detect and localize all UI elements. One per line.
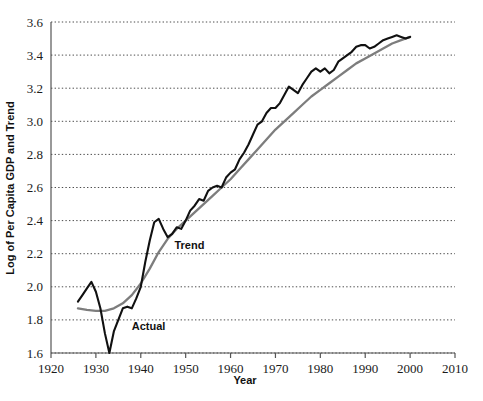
y-tick-label: 3.6 (27, 15, 44, 30)
x-axis-title: Year (233, 374, 257, 386)
y-tick-label: 3.0 (27, 114, 43, 129)
x-tick-label: 1950 (173, 361, 199, 376)
chart-figure: 1.61.82.02.22.42.62.83.03.23.43.6 192019… (0, 0, 483, 401)
y-tick-label: 3.4 (27, 48, 44, 63)
y-tick-label: 2.2 (27, 246, 43, 261)
y-tick-label: 2.6 (27, 180, 44, 195)
trend-label: Trend (174, 239, 204, 251)
y-tick-label: 3.2 (27, 81, 43, 96)
x-tick-label: 1940 (128, 361, 154, 376)
y-tick-label: 2.4 (27, 213, 44, 228)
actual-label: Actual (132, 320, 166, 332)
x-tick-label: 1930 (83, 361, 109, 376)
x-tick-label: 1920 (38, 361, 64, 376)
y-tick-label: 1.8 (27, 312, 43, 327)
x-tick-label: 2010 (442, 361, 468, 376)
x-tick-label: 1990 (352, 361, 378, 376)
gdp-trend-line-chart: 1.61.82.02.22.42.62.83.03.23.43.6 192019… (0, 0, 483, 401)
y-axis-title: Log of Per Capita GDP and Trend (4, 101, 16, 274)
y-tick-label: 2.8 (27, 147, 43, 162)
y-tick-label: 2.0 (27, 279, 43, 294)
x-tick-label: 2000 (397, 361, 423, 376)
x-tick-label: 1980 (307, 361, 333, 376)
x-tick-label: 1970 (262, 361, 288, 376)
chart-background (0, 0, 483, 401)
y-tick-label: 1.6 (27, 346, 44, 361)
